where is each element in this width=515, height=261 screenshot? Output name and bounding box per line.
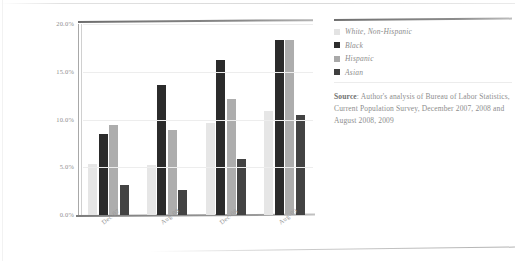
chart-top-rule: [78, 19, 313, 23]
legend-label: Black: [345, 41, 363, 50]
legend-divider: [334, 82, 512, 83]
gridline: [83, 72, 313, 73]
y-axis-inner-line: [81, 24, 82, 215]
y-axis-tick-label: 0.0%: [60, 211, 74, 218]
side-panel: White, Non-HispanicBlackHispanicAsian So…: [322, 0, 515, 261]
bar: [296, 115, 305, 215]
bar: [168, 130, 177, 215]
legend-item: Hispanic: [334, 52, 514, 66]
bar: [264, 111, 273, 215]
source-text: Author's analysis of Bureau of Labor Sta…: [334, 92, 510, 125]
legend-swatch: [334, 29, 340, 35]
y-axis-line: [78, 24, 79, 215]
bar: [99, 134, 108, 215]
plot-area: [78, 24, 313, 215]
chart-legend: White, Non-HispanicBlackHispanicAsian: [334, 25, 514, 79]
bar: [285, 40, 294, 215]
legend-item: Asian: [334, 66, 514, 80]
y-axis-tick-label: 10.0%: [56, 116, 74, 123]
bar: [216, 60, 225, 215]
figure-page: 20.0%15.0%10.0%5.0%0.0% Dec-07Aug-08Dec-…: [0, 0, 515, 261]
legend-swatch: [334, 56, 340, 62]
gridline: [83, 24, 313, 25]
source-label: Source: [334, 92, 357, 101]
bar: [206, 123, 215, 215]
y-axis-tick-label: 20.0%: [56, 20, 74, 27]
x-axis-labels: Dec-07Aug-08Dec-08Aug-09: [78, 216, 318, 261]
y-axis-tick-label: 5.0%: [60, 163, 74, 170]
y-axis-labels: 20.0%15.0%10.0%5.0%0.0%: [28, 18, 74, 223]
gridline: [83, 167, 313, 168]
legend-swatch: [334, 69, 340, 75]
bar: [147, 165, 156, 215]
bar: [88, 164, 97, 215]
bar: [157, 85, 166, 215]
bar: [120, 185, 129, 215]
source-note: Source: Author's analysis of Bureau of L…: [334, 91, 510, 128]
y-axis-tick-label: 15.0%: [56, 68, 74, 75]
legend-item: Black: [334, 39, 514, 53]
legend-label: Hispanic: [345, 54, 374, 63]
gridline: [83, 120, 313, 121]
legend-item: White, Non-Hispanic: [334, 25, 514, 39]
bar: [275, 40, 284, 215]
legend-label: Asian: [345, 68, 363, 77]
legend-label: White, Non-Hispanic: [345, 27, 412, 36]
legend-swatch: [334, 42, 340, 48]
bar: [227, 99, 236, 215]
side-panel-top-rule: [334, 18, 512, 21]
bar: [109, 125, 118, 215]
chart-area: 20.0%15.0%10.0%5.0%0.0% Dec-07Aug-08Dec-…: [0, 0, 322, 261]
